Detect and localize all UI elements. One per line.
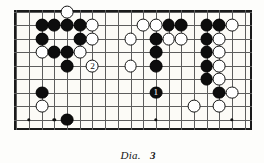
star-point — [154, 118, 157, 121]
stone-white-move-2: 2 — [86, 59, 99, 72]
star-point — [27, 118, 30, 121]
stone-black — [175, 19, 188, 32]
stone-black — [200, 19, 213, 32]
stone-black — [48, 46, 61, 59]
stone-black — [149, 46, 162, 59]
stone-white — [226, 19, 239, 32]
stone-black — [200, 46, 213, 59]
grid-line-vertical — [105, 10, 106, 130]
stone-black — [213, 86, 226, 99]
grid-line-vertical — [245, 10, 246, 130]
stone-white — [35, 100, 48, 113]
stone-white — [86, 19, 99, 32]
move-number: 2 — [87, 60, 98, 71]
board-border-right — [250, 10, 252, 130]
stone-black — [213, 19, 226, 32]
stone-black — [200, 32, 213, 45]
stone-white — [213, 100, 226, 113]
grid-line-horizontal — [14, 120, 252, 121]
stone-white — [175, 32, 188, 45]
stone-white — [124, 32, 137, 45]
star-point — [53, 118, 56, 121]
stone-white — [149, 19, 162, 32]
stone-black — [149, 59, 162, 72]
grid-line-horizontal — [14, 12, 252, 13]
stone-black — [73, 32, 86, 45]
move-number: 1 — [150, 87, 161, 98]
stone-black — [162, 19, 175, 32]
stone-white — [213, 46, 226, 59]
stone-black — [35, 32, 48, 45]
star-point — [230, 118, 233, 121]
caption-label: Dia. — [120, 149, 140, 161]
stone-black — [35, 86, 48, 99]
figure-caption: Dia. 3 — [0, 137, 264, 163]
stone-black — [35, 19, 48, 32]
stone-black — [73, 19, 86, 32]
stone-black — [61, 19, 74, 32]
stone-black — [149, 32, 162, 45]
stone-white — [86, 32, 99, 45]
board-border-bottom — [14, 128, 252, 130]
stone-black — [61, 59, 74, 72]
grid-line-vertical — [16, 10, 17, 130]
stone-white — [137, 19, 150, 32]
stone-white — [162, 32, 175, 45]
stone-white — [213, 59, 226, 72]
go-board: 21 — [14, 10, 252, 130]
stone-white — [73, 46, 86, 59]
stone-white — [124, 59, 137, 72]
stone-white — [213, 73, 226, 86]
stone-black — [61, 46, 74, 59]
stone-white — [35, 46, 48, 59]
figure-container: 21 Dia. 3 — [0, 0, 264, 163]
stone-black — [61, 113, 74, 126]
stone-black — [200, 73, 213, 86]
stone-white — [213, 32, 226, 45]
stone-black-move-1: 1 — [149, 86, 162, 99]
stone-black — [200, 59, 213, 72]
grid-line-vertical — [118, 10, 119, 130]
stone-black — [48, 19, 61, 32]
caption-number: 3 — [150, 149, 156, 161]
stone-white — [226, 86, 239, 99]
grid-line-vertical — [29, 10, 30, 130]
stone-white — [188, 100, 201, 113]
stone-white — [61, 6, 74, 19]
